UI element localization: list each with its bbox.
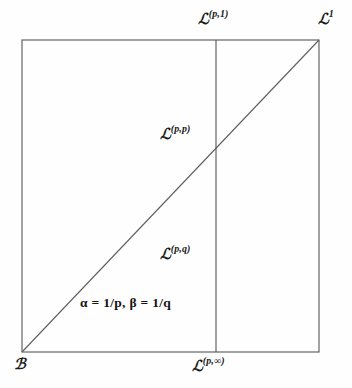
label-L-p-q-superscript: (p,q) xyxy=(171,243,191,254)
formula-alpha-beta: α = 1/p, β = 1/q xyxy=(80,296,171,310)
label-L-1-superscript: 1 xyxy=(329,8,334,19)
label-L-1-base: ℒ xyxy=(318,11,329,27)
label-L-p-infinity-superscript: (p,∞) xyxy=(203,355,225,366)
label-K: ℬ xyxy=(14,357,26,372)
label-L-p-q-base: ℒ xyxy=(160,246,171,262)
label-L-p-infinity: ℒ(p,∞) xyxy=(192,357,225,374)
label-L-1: ℒ1 xyxy=(318,10,334,27)
label-L-p-p-superscript: (p,p) xyxy=(171,123,191,134)
label-L-p-1: ℒ(p,1) xyxy=(198,10,228,27)
label-K-base: ℬ xyxy=(14,356,26,372)
diagram-canvas xyxy=(0,0,352,388)
figure-container: ℒ(p,1) ℒ1 ℒ(p,p) ℒ(p,q) α = 1/p, β = 1/q… xyxy=(0,0,352,388)
label-L-p-p: ℒ(p,p) xyxy=(160,125,190,142)
label-L-p-q: ℒ(p,q) xyxy=(160,245,190,262)
label-L-p-1-base: ℒ xyxy=(198,11,209,27)
label-L-p-infinity-base: ℒ xyxy=(192,358,203,374)
formula-text: α = 1/p, β = 1/q xyxy=(80,295,171,310)
label-L-p-p-base: ℒ xyxy=(160,126,171,142)
label-L-p-1-superscript: (p,1) xyxy=(209,8,229,19)
